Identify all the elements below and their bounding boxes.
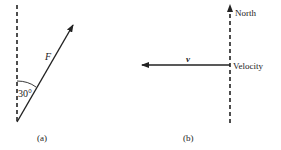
velocity-label: Velocity: [233, 61, 263, 71]
north-label: North: [235, 8, 256, 18]
angle-arc: [17, 81, 36, 87]
vector-label: v: [186, 54, 191, 64]
caption-b: (b): [183, 133, 194, 143]
force-arrow: [17, 25, 73, 122]
force-label: F: [44, 51, 52, 62]
figure-b: North v Velocity (b): [142, 4, 263, 143]
figure-a: 30° F (a): [17, 5, 73, 143]
north-arrowhead-icon: [227, 4, 233, 12]
caption-a: (a): [37, 133, 47, 143]
angle-label: 30°: [18, 88, 32, 99]
vector-diagram: 30° F (a) North v Velocity (b): [0, 0, 281, 150]
